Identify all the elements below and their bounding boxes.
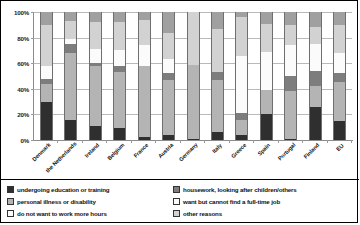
x-axis-tick — [351, 140, 352, 143]
y-axis-tick — [31, 89, 34, 90]
y-axis-tick — [31, 140, 34, 141]
bar-segment — [90, 49, 101, 63]
x-label-slot: Greece — [230, 142, 254, 178]
x-axis-tick-label: Greece — [230, 142, 247, 159]
bar-segment — [212, 132, 223, 140]
legend-item: do not want to work more hours — [1, 207, 171, 219]
bar-segment — [65, 21, 76, 39]
bar-slot — [34, 12, 58, 140]
y-axis-tick-label: 40% — [17, 85, 29, 92]
bar-slot — [205, 12, 229, 140]
bar-segment — [236, 135, 247, 140]
bar-segment — [114, 50, 125, 65]
bar-segment — [41, 102, 52, 140]
bar-segment — [65, 44, 76, 53]
stacked-bar[interactable] — [333, 12, 346, 140]
x-label-slot: Ireland — [83, 142, 107, 178]
bar-segment — [334, 53, 345, 73]
legend-item: undergoing education or training — [1, 183, 171, 195]
bar-slot — [254, 12, 278, 140]
bar-series-group — [34, 12, 352, 140]
y-axis-tick-label: 60% — [17, 60, 29, 67]
legend-label: housework, looking after children/others — [183, 186, 297, 193]
bar-segment — [188, 139, 199, 140]
bar-segment — [114, 12, 125, 22]
x-axis-tick — [180, 140, 181, 143]
bar-segment — [285, 12, 296, 25]
x-label-slot: France — [132, 142, 156, 178]
bar-segment — [65, 120, 76, 140]
x-axis-tick-label: Portugal — [277, 142, 297, 162]
bar-segment — [41, 12, 52, 25]
y-axis-tick — [31, 114, 34, 115]
legend-row: personal illness or disability want but … — [1, 195, 359, 207]
y-axis-labels: 0%20%40%60%80%100% — [1, 1, 31, 153]
legend-label: want but cannot find a full-time job — [183, 198, 280, 205]
stacked-bar[interactable] — [138, 12, 151, 140]
x-axis-tick-label: Denmark — [31, 142, 52, 163]
bar-segment — [334, 73, 345, 82]
x-axis-tick — [131, 140, 132, 143]
bar-segment — [212, 80, 223, 132]
x-axis-tick-label: Ireland — [84, 142, 101, 159]
x-axis-tick — [82, 140, 83, 143]
x-axis-tick — [327, 140, 328, 143]
bar-segment — [212, 72, 223, 80]
bar-segment — [285, 139, 296, 140]
legend-swatch-icon — [7, 186, 14, 193]
x-label-slot: Austria — [156, 142, 180, 178]
bar-segment — [41, 25, 52, 66]
y-axis-tick-label: 100% — [14, 9, 29, 16]
legend-label: other reasons — [183, 210, 222, 217]
x-label-slot: the Netherlands — [58, 142, 82, 178]
bar-slot — [83, 12, 107, 140]
bar-segment — [114, 22, 125, 50]
x-axis-labels: Denmarkthe NetherlandsIrelandBelgiumFran… — [34, 142, 352, 178]
bar-slot — [132, 12, 156, 140]
bar-segment — [285, 91, 296, 138]
bar-segment — [188, 12, 199, 64]
stacked-bar[interactable] — [211, 12, 224, 140]
bar-slot — [303, 12, 327, 140]
bar-segment — [188, 65, 199, 139]
y-axis-tick-label: 20% — [17, 111, 29, 118]
stacked-bar[interactable] — [309, 12, 322, 140]
bar-segment — [90, 126, 101, 140]
stacked-bar[interactable] — [40, 12, 53, 140]
stacked-bar[interactable] — [260, 12, 273, 140]
bar-segment — [163, 135, 174, 140]
stacked-bar[interactable] — [162, 12, 175, 140]
x-label-slot: Finland — [303, 142, 327, 178]
x-axis-tick — [229, 140, 230, 143]
legend-row: do not want to work more hours other rea… — [1, 207, 359, 219]
stacked-bar[interactable] — [187, 12, 200, 140]
bar-slot — [328, 12, 352, 140]
plot-canvas — [34, 12, 352, 140]
chart-figure: 0%20%40%60%80%100% Denmarkthe Netherland… — [0, 0, 358, 223]
stacked-bar[interactable] — [64, 12, 77, 140]
bar-segment — [310, 12, 321, 27]
x-axis-tick-label: Italy — [211, 142, 223, 154]
stacked-bar[interactable] — [235, 12, 248, 140]
bar-slot — [58, 12, 82, 140]
bar-segment — [310, 71, 321, 86]
stacked-bar[interactable] — [89, 12, 102, 140]
stacked-bar[interactable] — [284, 12, 297, 140]
legend-label: personal illness or disability — [17, 198, 96, 205]
bar-slot — [181, 12, 205, 140]
bar-segment — [261, 52, 272, 90]
bar-segment — [163, 12, 174, 32]
bar-segment — [139, 137, 150, 140]
bar-segment — [163, 59, 174, 73]
bar-segment — [334, 82, 345, 120]
x-label-slot: Portugal — [279, 142, 303, 178]
bar-segment — [236, 56, 247, 114]
legend-swatch-icon — [173, 198, 180, 205]
bar-segment — [65, 53, 76, 120]
bar-segment — [139, 12, 150, 20]
stacked-bar[interactable] — [113, 12, 126, 140]
x-axis-tick — [204, 140, 205, 143]
bar-segment — [139, 20, 150, 46]
bar-segment — [261, 12, 272, 24]
bar-segment — [334, 121, 345, 140]
